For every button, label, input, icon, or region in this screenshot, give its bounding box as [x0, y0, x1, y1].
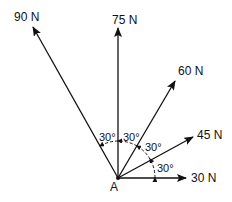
label-origin-a: A [110, 180, 118, 194]
angle-label-1: 30° [99, 131, 116, 143]
label-30n: 30 N [191, 171, 216, 185]
force-90n-arrow [33, 27, 118, 178]
label-45n: 45 N [197, 128, 222, 142]
angle-label-3: 30° [145, 141, 162, 153]
force-diagram: 90 N 75 N 60 N 45 N 30 N A 30° 30° 30° 3… [0, 0, 232, 202]
angle-label-2: 30° [123, 131, 140, 143]
label-75n: 75 N [112, 13, 137, 27]
label-90n: 90 N [14, 10, 39, 24]
angle-arc-0-30 [150, 159, 155, 178]
label-60n: 60 N [178, 64, 203, 78]
angle-label-4: 30° [157, 162, 174, 174]
